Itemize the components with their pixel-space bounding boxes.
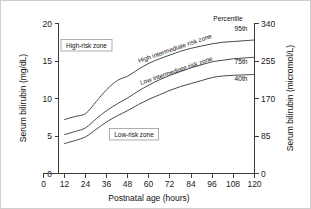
x-tick-108: 108: [226, 179, 240, 189]
low-risk-zone-annotation: Low-risk zone: [110, 129, 159, 141]
curve-40th-percentile: [65, 75, 255, 144]
percentile-40th-label: 40th: [235, 75, 248, 82]
percentile-legend: Percentile 95th 75th 40th: [213, 15, 247, 82]
chart-figure: 20 15 10 5 0 Serum bilirubin (mg/dL) 340…: [0, 0, 311, 209]
y-right-tick-255: 255: [261, 56, 275, 66]
y-axis-left: 20 15 10 5 0 Serum bilirubin (mg/dL): [18, 19, 59, 179]
x-tick-12: 12: [60, 179, 70, 189]
x-axis-title: Postnatal age (hours): [108, 193, 189, 203]
x-tick-96: 96: [207, 179, 217, 189]
y-right-tick-85: 85: [261, 131, 271, 141]
percentile-75th-label: 75th: [235, 58, 248, 65]
y-right-tick-0: 0: [261, 169, 266, 179]
percentile-95th-label: 95th: [235, 25, 248, 32]
y-left-tick-10: 10: [43, 94, 53, 104]
y-right-tick-170: 170: [261, 94, 275, 104]
high-risk-zone-annotation: High-risk zone: [61, 40, 112, 52]
x-tick-0: 0: [41, 179, 46, 189]
y-axis-right: 340 255 170 85 0 Serum bilirubin (microm…: [255, 19, 296, 179]
y-left-tick-15: 15: [43, 56, 53, 66]
x-tick-36: 36: [102, 179, 112, 189]
percentile-heading-label: Percentile: [213, 15, 243, 22]
y-axis-right-title: Serum bilirubin (micromol/L): [285, 45, 295, 151]
x-tick-24: 24: [81, 179, 91, 189]
x-tick-60: 60: [144, 179, 154, 189]
x-axis: 0 12 24 36 48 60 72 84 96 108 120 Postna…: [41, 174, 262, 204]
x-tick-48: 48: [123, 179, 133, 189]
y-left-tick-5: 5: [47, 131, 52, 141]
y-left-tick-20: 20: [43, 19, 53, 29]
x-tick-120: 120: [247, 179, 261, 189]
high-risk-zone-label: High-risk zone: [66, 42, 107, 50]
y-right-tick-340: 340: [261, 19, 275, 29]
low-risk-zone-label: Low-risk zone: [114, 131, 154, 138]
y-axis-left-title: Serum bilirubin (mg/dL): [18, 54, 28, 143]
curve-75th-percentile: [65, 57, 255, 134]
bilirubin-nomogram-chart: 20 15 10 5 0 Serum bilirubin (mg/dL) 340…: [1, 1, 311, 209]
x-tick-72: 72: [165, 179, 175, 189]
x-tick-84: 84: [186, 179, 196, 189]
